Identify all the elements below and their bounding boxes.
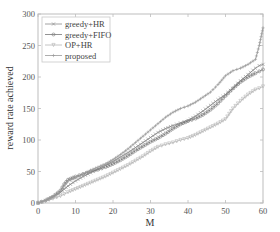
legend: greedy+HRgreedy+FIFOOP+HRproposed <box>42 17 111 62</box>
y-tick-label: 300 <box>22 9 35 19</box>
legend-label: proposed <box>65 51 97 61</box>
legend-label: greedy+FIFO <box>65 30 111 40</box>
x-tick-label: 30 <box>146 206 155 216</box>
y-tick-label: 150 <box>22 104 35 114</box>
y-tick-label: 0 <box>31 198 35 208</box>
y-tick-label: 200 <box>22 72 35 82</box>
x-axis-label: M <box>146 217 155 228</box>
x-tick-label: 60 <box>259 206 268 216</box>
x-tick-label: 50 <box>221 206 230 216</box>
x-tick-label: 40 <box>184 206 193 216</box>
y-tick-label: 50 <box>27 167 36 177</box>
legend-label: OP+HR <box>65 40 93 50</box>
x-tick-label: 0 <box>36 206 40 216</box>
y-tick-label: 250 <box>22 41 35 51</box>
x-tick-label: 10 <box>71 206 80 216</box>
legend-label: greedy+HR <box>65 19 105 29</box>
x-tick-label: 20 <box>109 206 118 216</box>
y-tick-label: 100 <box>22 135 35 145</box>
y-axis-label: reward rate achieved <box>4 66 15 149</box>
line-chart: 0102030405060050100150200250300 greedy+H… <box>0 0 280 232</box>
